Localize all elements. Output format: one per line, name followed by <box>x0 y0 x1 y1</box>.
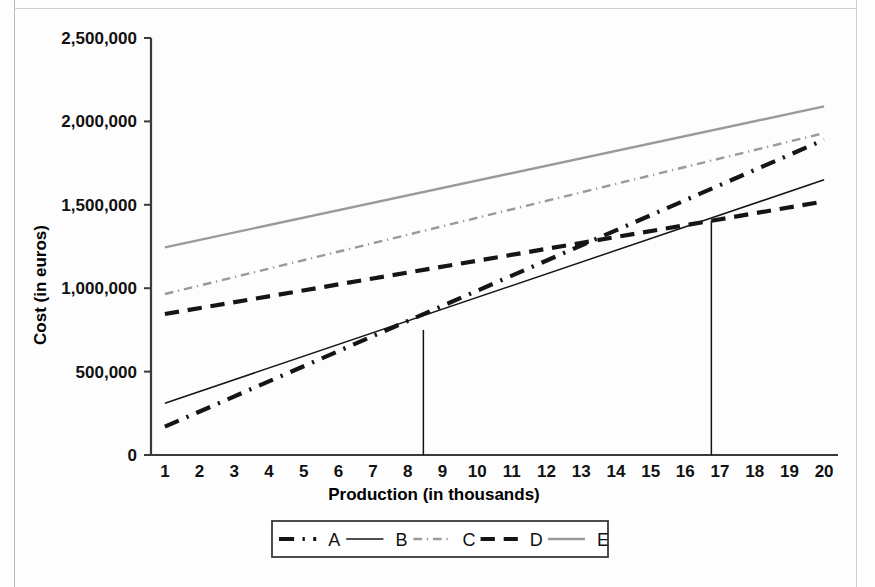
cost-vs-production-line-chart: Cost (in euros) 2,500,0002,000,0001,500,… <box>0 0 875 587</box>
y-tick-label: 2,500,000 <box>61 29 137 48</box>
y-axis-tick-labels: 2,500,0002,000,0001,500,0001,000,000500,… <box>61 29 137 465</box>
x-tick-label: 13 <box>572 462 591 481</box>
x-tick-label: 9 <box>438 462 447 481</box>
y-tick-label: 2,000,000 <box>61 112 137 131</box>
y-tick-label: 1,500,000 <box>61 196 137 215</box>
x-tick-label: 5 <box>299 462 308 481</box>
chart-legend: ABCDE <box>272 521 609 557</box>
x-tick-label: 6 <box>334 462 343 481</box>
series-line-a <box>165 140 824 427</box>
axis-spines <box>144 38 838 455</box>
x-tick-label: 3 <box>230 462 239 481</box>
y-tick-label: 1,000,000 <box>61 279 137 298</box>
x-tick-label: 2 <box>195 462 204 481</box>
x-tick-label: 18 <box>745 462 764 481</box>
x-tick-label: 20 <box>815 462 834 481</box>
annotation-lines <box>423 221 711 455</box>
x-axis-title: Production (in thousands) <box>328 485 540 504</box>
legend-label-d: D <box>530 530 543 550</box>
x-tick-label: 16 <box>676 462 695 481</box>
x-tick-label: 1 <box>160 462 169 481</box>
x-tick-label: 7 <box>368 462 377 481</box>
series-line-d <box>165 201 824 314</box>
y-tick-label: 0 <box>128 446 137 465</box>
series-line-e <box>165 106 824 247</box>
y-axis-title: Cost (in euros) <box>31 225 50 345</box>
legend-label-c: C <box>463 530 476 550</box>
legend-label-e: E <box>597 530 609 550</box>
x-tick-label: 15 <box>641 462 660 481</box>
legend-label-a: A <box>328 530 340 550</box>
x-tick-label: 10 <box>468 462 487 481</box>
x-tick-label: 19 <box>780 462 799 481</box>
x-tick-label: 11 <box>503 462 521 481</box>
x-tick-label: 17 <box>711 462 730 481</box>
data-series-layer <box>165 106 824 426</box>
x-tick-label: 12 <box>537 462 556 481</box>
x-tick-label: 14 <box>606 462 625 481</box>
legend-label-b: B <box>395 530 407 550</box>
x-tick-label: 8 <box>403 462 412 481</box>
x-tick-label: 4 <box>264 462 274 481</box>
y-tick-label: 500,000 <box>76 363 137 382</box>
x-axis-tick-labels: 1234567891011121314151617181920 <box>160 462 833 481</box>
figure-page: Cost (in euros) 2,500,0002,000,0001,500,… <box>0 0 875 587</box>
